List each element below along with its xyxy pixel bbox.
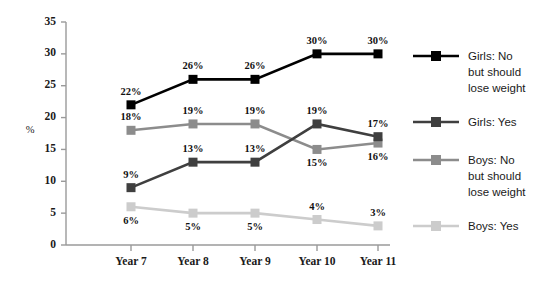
series-marker <box>251 209 260 218</box>
y-axis-tick-label: 5 <box>50 206 56 218</box>
x-axis-tick-label: Year 8 <box>177 255 209 267</box>
data-point-label: 13% <box>183 143 204 154</box>
data-point-label: 30% <box>307 35 328 46</box>
data-point-label: 22% <box>121 86 142 97</box>
legend-label-4: Boys: Yes <box>468 220 519 232</box>
data-point-label: 17% <box>368 118 389 129</box>
legend-marker-1 <box>431 51 441 61</box>
data-labels-layer: 22%26%26%30%30%9%13%13%19%17%18%19%19%15… <box>121 35 389 232</box>
series-marker <box>374 221 383 230</box>
legend-label-2: Girls: Yes <box>468 116 517 128</box>
data-point-label: 26% <box>183 60 204 71</box>
line-chart: 05101520253035% Year 7Year 8Year 9Year 1… <box>0 0 538 281</box>
data-point-label: 15% <box>307 157 328 168</box>
data-point-label: 18% <box>121 111 142 122</box>
data-point-label: 9% <box>123 169 139 180</box>
data-point-label: 19% <box>183 105 204 116</box>
series-marker <box>189 209 198 218</box>
data-point-label: 4% <box>309 201 325 212</box>
data-point-label: 5% <box>247 221 263 232</box>
series-marker <box>189 119 198 128</box>
legend-label-3: lose weight <box>468 186 526 198</box>
legend-marker-3 <box>431 155 441 165</box>
y-axis-tick-label: 15 <box>45 142 57 154</box>
y-axis-tick-label: 0 <box>50 238 56 250</box>
data-point-label: 3% <box>370 207 386 218</box>
y-axis-tick-label: 30 <box>45 46 57 58</box>
x-axis-tick-label: Year 10 <box>298 255 335 267</box>
series-line <box>131 124 378 188</box>
legend-label-3: but should <box>468 170 521 182</box>
data-point-label: 5% <box>185 221 201 232</box>
data-point-label: 13% <box>245 143 266 154</box>
series-marker <box>313 119 322 128</box>
series-marker <box>251 119 260 128</box>
series-marker <box>127 126 136 135</box>
data-point-label: 19% <box>307 105 328 116</box>
series-marker <box>374 132 383 141</box>
data-point-label: 6% <box>123 215 139 226</box>
y-axis-title: % <box>26 124 35 135</box>
x-axis-tick-label: Year 11 <box>360 255 397 267</box>
data-point-label: 26% <box>245 60 266 71</box>
legend-label-1: lose weight <box>468 82 526 94</box>
series-marker <box>189 75 198 84</box>
series-marker <box>313 215 322 224</box>
legend-marker-4 <box>431 221 441 231</box>
legend-label-1: but should <box>468 66 521 78</box>
legend-label-1: Girls: No <box>468 50 513 62</box>
data-point-label: 16% <box>368 151 389 162</box>
series-marker <box>251 75 260 84</box>
y-axis-tick-label: 20 <box>45 110 57 122</box>
series-marker <box>313 145 322 154</box>
legend-label-3: Boys: No <box>468 154 515 166</box>
series-marker <box>127 202 136 211</box>
series-marker <box>127 183 136 192</box>
series-layer <box>127 49 383 230</box>
chart-legend: Girls: Nobut shouldlose weightGirls: Yes… <box>413 50 526 232</box>
y-axis-tick-label: 10 <box>45 174 57 186</box>
data-point-label: 30% <box>368 35 389 46</box>
y-axis-tick-label: 25 <box>45 78 57 90</box>
x-axis-tick-label: Year 9 <box>239 255 271 267</box>
data-point-label: 19% <box>245 105 266 116</box>
series-marker <box>127 100 136 109</box>
y-axis-tick-label: 35 <box>45 15 57 27</box>
chart-container: 05101520253035% Year 7Year 8Year 9Year 1… <box>0 0 538 281</box>
legend-marker-2 <box>431 117 441 127</box>
x-axis-tick-label: Year 7 <box>115 255 147 267</box>
series-marker <box>374 49 383 58</box>
x-axis: Year 7Year 8Year 9Year 10Year 11 <box>66 245 397 267</box>
series-marker <box>251 158 260 167</box>
series-marker <box>189 158 198 167</box>
series-marker <box>313 49 322 58</box>
y-axis: 05101520253035% <box>26 15 66 250</box>
